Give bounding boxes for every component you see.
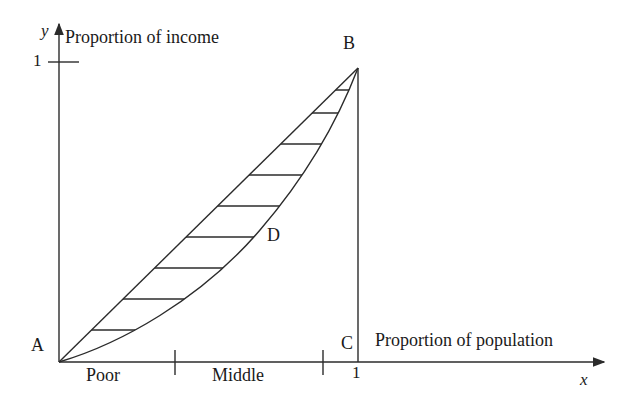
segment-label-middle: Middle bbox=[212, 366, 264, 384]
y-axis-name: y bbox=[41, 22, 49, 39]
point-label-a: A bbox=[31, 336, 44, 354]
x-tick-label-1: 1 bbox=[352, 364, 361, 381]
x-axis-caption: Proportion of population bbox=[375, 331, 553, 349]
y-tick-label-1: 1 bbox=[33, 52, 42, 69]
point-label-c: C bbox=[341, 334, 353, 352]
segment-label-poor: Poor bbox=[86, 366, 120, 384]
region-label-d: D bbox=[267, 226, 280, 244]
x-axis-name: x bbox=[580, 371, 588, 388]
region-d-hatching bbox=[40, 90, 380, 330]
lorenz-curve-figure: y x Proportion of income Proportion of p… bbox=[0, 0, 630, 415]
point-label-b: B bbox=[343, 34, 355, 52]
diagram-canvas bbox=[0, 0, 630, 415]
y-axis-caption: Proportion of income bbox=[65, 28, 219, 46]
line-of-equality bbox=[59, 68, 358, 362]
